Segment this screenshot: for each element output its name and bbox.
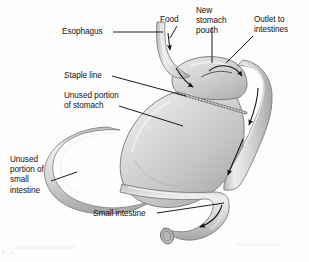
label-unused-portion-of-small-intestine: Unused portion of small intestine xyxy=(10,155,44,196)
intestine-cut-end xyxy=(159,227,176,246)
label-esophagus: Esophagus xyxy=(62,27,103,37)
label-staple-line: Staple line xyxy=(64,71,102,81)
label-new-stomach-pouch: New stomach pouch xyxy=(196,6,227,37)
scan-artifacts xyxy=(2,243,282,254)
leader-food xyxy=(170,26,177,38)
label-outlet-to-intestines: Outlet to intestines xyxy=(254,15,288,35)
esophagus-downward-arrow xyxy=(168,33,170,50)
gastric-bypass-diagram: Esophagus Food New stomach pouch Outlet … xyxy=(0,0,309,262)
anatomy-illustration xyxy=(0,0,309,262)
label-small-intestine: Small intestine xyxy=(93,209,146,219)
label-food: Food xyxy=(160,15,178,25)
leader-outlet xyxy=(226,36,253,63)
label-unused-portion-of-stomach: Unused portion of stomach xyxy=(64,91,119,111)
